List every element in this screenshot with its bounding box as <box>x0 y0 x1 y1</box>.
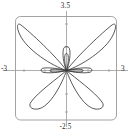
x-axis-max-label: 3 <box>121 66 125 73</box>
y-axis-max-label: 3.5 <box>61 3 70 10</box>
plot-canvas <box>0 0 131 138</box>
polar-plot-figure: 3.5 -2.5 -3 3 <box>0 0 131 138</box>
x-axis-min-label: -3 <box>1 66 7 73</box>
y-axis-min-label: -2.5 <box>60 124 72 131</box>
